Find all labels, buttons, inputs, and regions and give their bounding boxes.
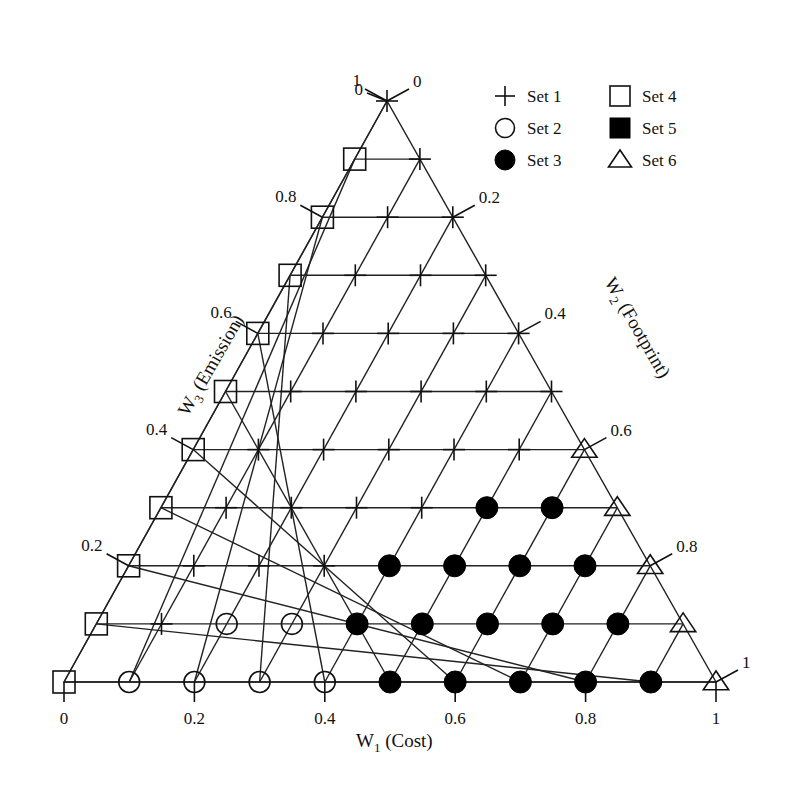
w1-tick-label: 0.2 [184,709,205,728]
marker-set-1 [345,381,367,403]
w2-axis-title: W2 (Footprint) [597,274,675,384]
marker-set-1 [409,148,431,170]
marker-set-1 [411,497,433,519]
marker-set-6 [609,150,632,167]
legend-label: Set 2 [527,119,561,138]
marker-set-1 [312,322,334,344]
w2-tick-label: 1 [742,653,751,672]
marker-set-1 [377,322,399,344]
marker-set-3 [379,671,401,693]
marker-set-3 [411,613,433,635]
marker-set-3 [607,613,629,635]
marker-set-3 [509,555,531,577]
marker-set-1 [410,264,432,286]
marker-set-1 [183,555,205,577]
w3-tick-label: 0.8 [275,187,296,206]
w1-tick-label: 0 [60,709,69,728]
marker-set-1 [376,90,398,112]
marker-set-1 [280,497,302,519]
w3-tick-label: 0.2 [81,536,102,555]
marker-set-3 [477,613,499,635]
marker-set-3 [509,671,531,693]
marker-set-3 [495,150,515,170]
marker-set-2 [496,119,515,138]
legend-item-set-5: Set 5 [610,118,676,138]
legend-item-set-1: Set 1 [495,86,561,106]
marker-set-1 [508,439,530,461]
w2-tick-label: 0.2 [479,188,500,207]
marker-set-1 [378,439,400,461]
marker-set-1 [442,322,464,344]
marker-set-4 [610,86,630,106]
marker-set-1 [541,381,563,403]
marker-set-1 [377,206,399,228]
marker-set-3 [640,671,662,693]
marker-set-1 [475,264,497,286]
w3-tick-label: 0.4 [146,420,168,439]
marker-set-5 [610,118,630,138]
legend-item-set-3: Set 3 [495,150,561,170]
marker-set-1 [344,264,366,286]
marker-set-1 [248,555,270,577]
ternary-plot: 00.20.40.60.810.20.40.60.8100.20.40.60.8… [0,0,787,796]
w1-tick-label: 0.6 [445,709,466,728]
marker-set-6 [572,439,597,458]
legend-label: Set 1 [527,87,561,106]
legend-item-set-6: Set 6 [609,150,677,170]
marker-set-3 [575,671,597,693]
marker-set-6 [638,555,663,574]
legend-item-set-4: Set 4 [610,86,677,106]
marker-set-1 [247,439,269,461]
marker-set-1 [313,439,335,461]
marker-set-6 [670,613,695,632]
w1-axis-title: W1 (Cost) [356,730,433,755]
w1-tick-label: 1 [712,709,721,728]
w1-tick-label: 0.4 [314,709,336,728]
marker-set-1 [346,497,368,519]
legend-item-set-2: Set 2 [496,119,562,139]
w2-tick-label: 0.8 [676,537,697,556]
tick-marks [64,89,738,702]
marker-set-3 [444,671,466,693]
marker-set-3 [378,555,400,577]
marker-set-3 [444,555,466,577]
w2-tick-label: 0.4 [545,304,567,323]
legend-label: Set 5 [642,119,676,138]
top-vertex-label: 0 [355,80,364,99]
w1-tick-label: 0.8 [575,709,596,728]
triangle-grid [64,101,716,682]
marker-set-1 [442,206,464,228]
marker-set-1 [495,86,515,106]
w2-tick-label: 0 [413,72,422,91]
marker-set-3 [574,555,596,577]
w2-tick-label: 0.6 [610,421,631,440]
marker-set-1 [280,381,302,403]
marker-set-3 [346,613,368,635]
legend-label: Set 3 [527,151,561,170]
marker-set-1 [443,439,465,461]
marker-set-3 [542,613,564,635]
marker-set-6 [605,497,630,516]
marker-set-1 [475,381,497,403]
legend-label: Set 4 [642,87,677,106]
legend-label: Set 6 [642,151,676,170]
marker-set-1 [215,497,237,519]
marker-set-1 [410,381,432,403]
legend: Set 1Set 2Set 3Set 4Set 5Set 6 [495,86,677,170]
marker-set-1 [508,322,530,344]
marker-set-3 [476,497,498,519]
marker-set-3 [541,497,563,519]
